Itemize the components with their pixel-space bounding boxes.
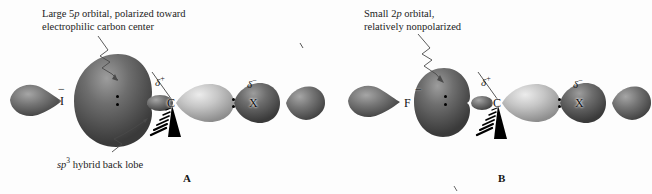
fluoride-minus-charge: − (415, 82, 422, 97)
iodide-lone-pair-dot-2 (116, 103, 119, 106)
leaving-group-lone-pair-dot-2 (232, 105, 235, 108)
leaving-group-delta-minus: δ− (247, 76, 257, 90)
leaving-group-atom-label: X (249, 96, 258, 111)
leaving-group-back-lobe (286, 86, 325, 119)
carbon-sp3-back-lobe (471, 96, 493, 110)
panel-a-orbital-rendering (0, 0, 326, 194)
panel-a: Large 5p orbital, polarized toward elect… (0, 0, 326, 194)
leaving-group-atom-label-b: X (575, 96, 584, 111)
carbon-delta-plus: δ+ (155, 74, 165, 88)
fluoride-back-lobe (348, 86, 400, 117)
panel-b: Small 2p orbital, relatively nonpolarize… (326, 0, 652, 194)
fluoride-lone-pair-dot-1 (444, 95, 447, 98)
leaving-group-lone-pair-dot-2-b (558, 105, 561, 108)
hashed-wedge-bond (151, 108, 171, 135)
leaving-group-lone-pair-dot-1-b (558, 98, 561, 101)
panel-b-orbital-rendering (326, 0, 652, 194)
carbon-sp3-front-lobe-b (502, 84, 560, 122)
hashed-wedge-bond-b (477, 108, 497, 135)
carbon-delta-plus-b: δ+ (481, 74, 491, 88)
fluoride-atom-label: F (404, 96, 411, 111)
iodide-back-lobe (10, 85, 62, 116)
carbon-atom-label-b: C (493, 96, 501, 111)
iodide-lone-pair-dot-1 (116, 95, 119, 98)
leaving-group-lone-pair-dot-1 (232, 98, 235, 101)
fluoride-2p-lobe (414, 68, 470, 137)
iodide-large-5p-lobe (74, 54, 152, 147)
carbon-atom-label: C (167, 96, 175, 111)
orbital-overlap-figure: Large 5p orbital, polarized toward elect… (0, 0, 652, 194)
iodide-atom-label: I (60, 94, 64, 109)
carbon-sp3-front-lobe (176, 84, 234, 122)
leaving-group-back-lobe-b (612, 86, 651, 119)
fluoride-lone-pair-dot-2 (444, 103, 447, 106)
leaving-group-delta-minus-b: δ− (573, 76, 583, 90)
